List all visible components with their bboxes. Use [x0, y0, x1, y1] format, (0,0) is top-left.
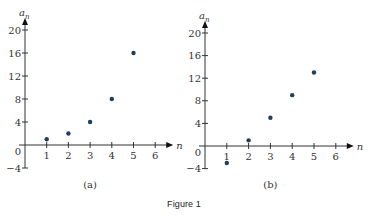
y-tick-label: 16 — [8, 48, 21, 59]
data-point — [131, 51, 135, 55]
x-axis-label: n — [176, 140, 182, 151]
y-tick-label: 4 — [195, 118, 201, 129]
x-axis-arrow-icon — [347, 143, 354, 149]
y-tick-label: −4 — [186, 163, 201, 174]
data-point — [312, 70, 316, 74]
figure-caption: Figure 1 — [0, 199, 368, 209]
y-tick-label: 12 — [8, 71, 21, 82]
y-tick-label: 16 — [188, 50, 201, 61]
x-tick-label: 4 — [109, 150, 115, 161]
x-tick-label: 6 — [152, 150, 158, 161]
x-tick-label: 3 — [267, 151, 273, 162]
x-tick-label: 1 — [224, 151, 230, 162]
x-tick-label: 2 — [65, 150, 71, 161]
x-tick-label: 6 — [333, 151, 339, 162]
y-axis-label: an — [199, 10, 210, 24]
y-tick-label: 12 — [188, 73, 201, 84]
data-point — [268, 116, 272, 120]
data-point — [290, 93, 294, 97]
data-point — [66, 131, 70, 135]
panel-label: (b) — [263, 179, 277, 190]
x-tick-label: 2 — [245, 151, 251, 162]
y-axis-label: an — [19, 7, 30, 21]
y-tick-label: 20 — [8, 25, 21, 36]
y-tick-label: −4 — [6, 163, 21, 174]
x-tick-label: 4 — [289, 151, 295, 162]
data-point — [225, 161, 229, 165]
x-tick-label: 5 — [130, 150, 136, 161]
y-tick-label: 8 — [15, 94, 21, 105]
scatter-plot-a: −4048121620123456nan(a) — [0, 0, 184, 200]
chart-panel-b: −4048121620123456nan(b) — [184, 0, 368, 200]
x-tick-label: 3 — [87, 150, 93, 161]
scatter-plot-b: −4048121620123456nan(b) — [184, 0, 368, 200]
y-tick-label: 20 — [188, 28, 201, 39]
chart-panel-a: −4048121620123456nan(a) — [0, 0, 184, 200]
panel-label: (a) — [83, 179, 97, 190]
data-point — [110, 97, 114, 101]
data-point — [45, 137, 49, 141]
x-tick-label: 5 — [311, 151, 317, 162]
y-tick-label: 0 — [15, 146, 21, 157]
y-tick-label: 0 — [195, 147, 201, 158]
x-tick-label: 1 — [44, 150, 50, 161]
y-tick-label: 4 — [15, 117, 21, 128]
x-axis-label: n — [357, 141, 363, 152]
y-tick-label: 8 — [195, 95, 201, 106]
x-axis-arrow-icon — [166, 142, 173, 148]
data-point — [246, 138, 250, 142]
data-point — [88, 120, 92, 124]
